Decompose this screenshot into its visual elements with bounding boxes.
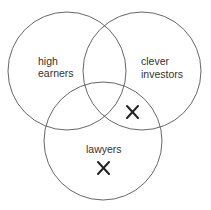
- circle-lawyers: [44, 82, 162, 200]
- label-earners: earners: [38, 67, 74, 79]
- x-mark-icon: [127, 106, 138, 118]
- label-lawyers: lawyers: [86, 143, 122, 155]
- x-mark-icon: [98, 162, 109, 174]
- venn-diagram: high earners clever investors lawyers: [0, 0, 211, 210]
- venn-canvas: high earners clever investors lawyers: [0, 0, 211, 210]
- label-high: high: [38, 55, 58, 67]
- label-clever: clever: [141, 55, 170, 67]
- label-investors: investors: [141, 68, 183, 80]
